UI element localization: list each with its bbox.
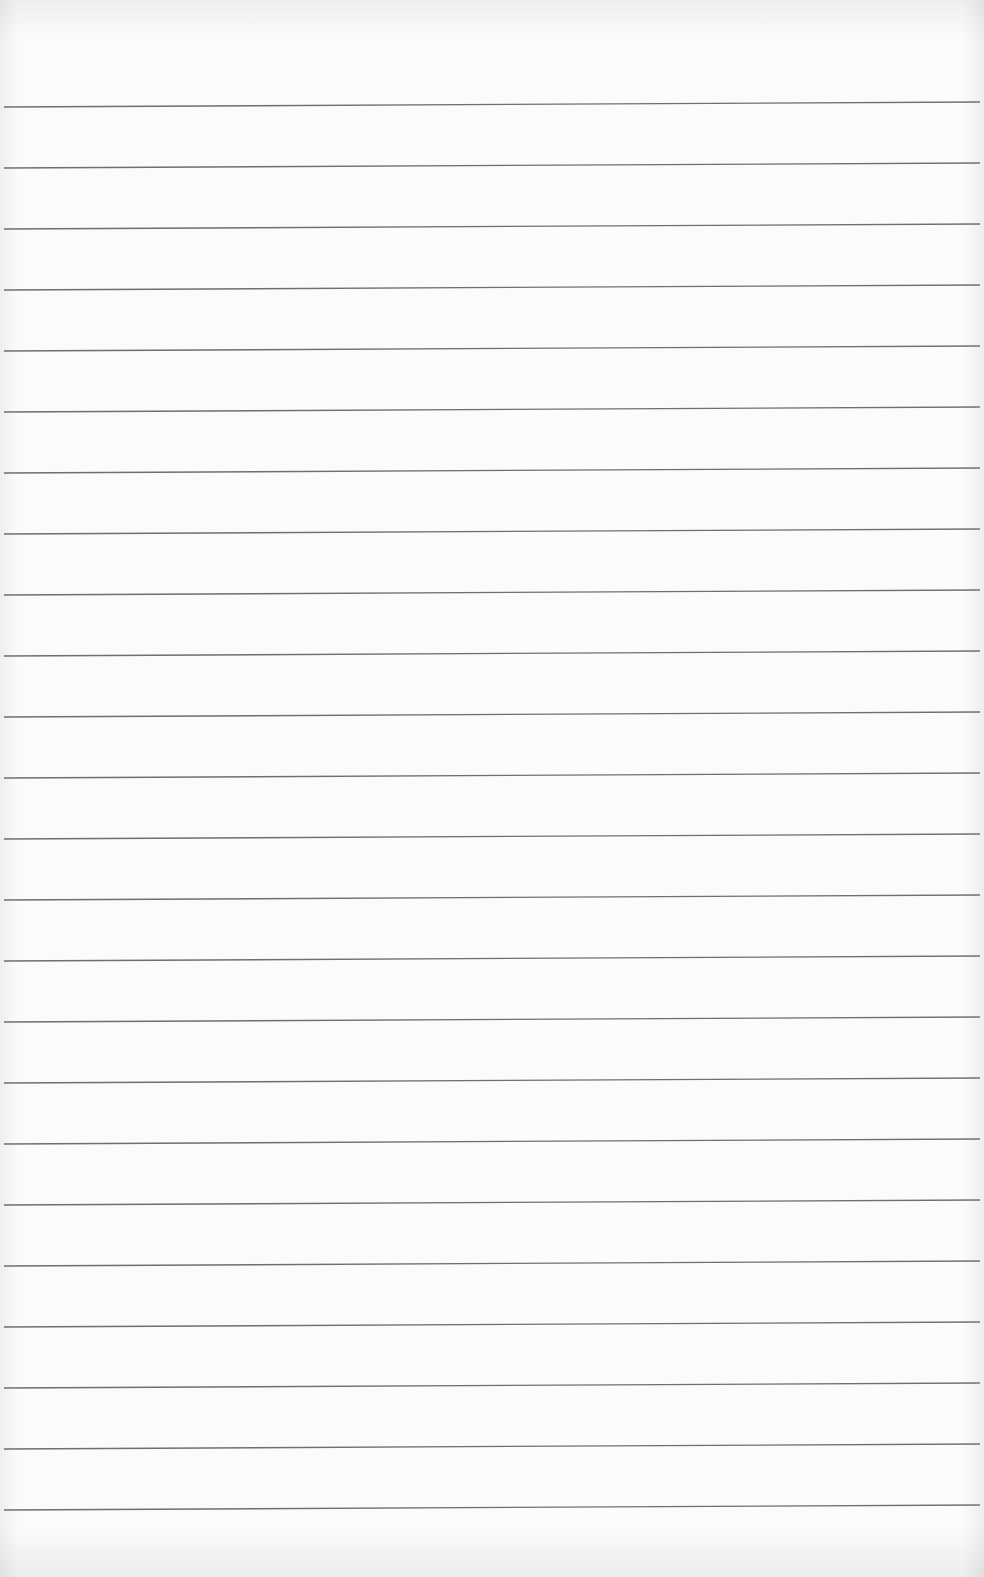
- ruled-line: [4, 590, 980, 595]
- ruled-line: [4, 468, 980, 473]
- ruled-line: [4, 224, 980, 229]
- ruled-line: [4, 1139, 980, 1144]
- ruled-line: [4, 1505, 980, 1510]
- ruled-line: [4, 651, 980, 656]
- ruled-line: [4, 102, 980, 107]
- ruled-line: [4, 1444, 980, 1449]
- ruled-line: [4, 956, 980, 961]
- ruled-line: [4, 346, 980, 351]
- ruled-line: [4, 773, 980, 778]
- ruled-line: [4, 285, 980, 290]
- ruled-line: [4, 1261, 980, 1266]
- ruled-line: [4, 834, 980, 839]
- ruled-line: [4, 1017, 980, 1022]
- ruled-line: [4, 1322, 980, 1327]
- ruled-line: [4, 1078, 980, 1083]
- ruled-lines: [0, 0, 984, 1577]
- ruled-line: [4, 712, 980, 717]
- ruled-line: [4, 407, 980, 412]
- ruled-line: [4, 1200, 980, 1205]
- ruled-line: [4, 529, 980, 534]
- ruled-line: [4, 163, 980, 168]
- ruled-paper-sheet: [0, 0, 984, 1577]
- ruled-line: [4, 895, 980, 900]
- ruled-line: [4, 1383, 980, 1388]
